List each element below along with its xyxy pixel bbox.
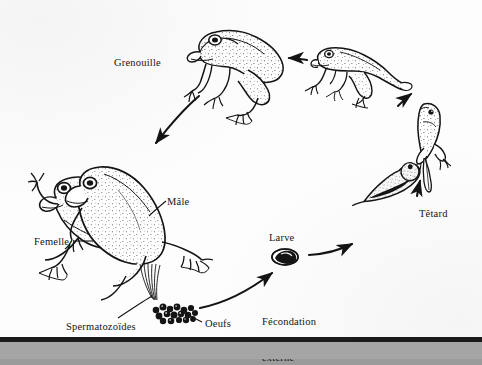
label-femelle: Femelle xyxy=(34,236,69,248)
label-oeufs: Oeufs xyxy=(205,318,231,330)
leader-spermatozoides xyxy=(118,296,152,318)
illustration-amplexus xyxy=(28,167,213,300)
scan-background xyxy=(0,342,482,359)
label-larve: Larve xyxy=(269,232,294,244)
illustration-tetard-jeune xyxy=(349,159,424,219)
arrow-larve-to-tetardjeune xyxy=(309,244,352,255)
illustration-tetard-pattes xyxy=(413,104,451,192)
arrow-grenouillette-to-grenouille xyxy=(289,58,307,60)
arrow-grenouille-to-amplexus xyxy=(156,96,199,143)
diagram-artwork xyxy=(0,0,482,337)
illustration-larve xyxy=(272,249,298,265)
illustration-grenouillette xyxy=(305,48,412,108)
arrow-tetardjeune-to-tetardpattes xyxy=(417,181,420,196)
label-fecondation-line1: Fécondation xyxy=(262,316,316,328)
illustration-grenouille xyxy=(184,31,283,125)
label-spermatozoides: Spermatozoïdes xyxy=(66,321,136,333)
illustration-oeufs xyxy=(153,304,198,325)
arrow-tetardpattes-to-grenouillette xyxy=(398,94,411,106)
label-male: Mâle xyxy=(167,196,189,208)
label-tetard: Têtard xyxy=(419,208,448,220)
label-grenouille: Grenouille xyxy=(114,57,161,69)
illustration-spermatozoides xyxy=(140,264,160,300)
